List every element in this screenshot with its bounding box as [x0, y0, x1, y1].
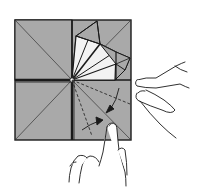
right-hand-holding-paper [136, 62, 190, 138]
origami-diagram [0, 0, 207, 193]
